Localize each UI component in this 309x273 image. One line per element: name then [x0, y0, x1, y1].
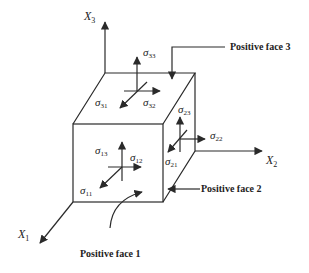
positive-face-2-label: Positive face 2 [201, 184, 262, 194]
stress-cube-diagram: X3 X2 X1 σ33 σ31 σ32 σ13 σ12 σ11 σ23 σ22… [0, 0, 309, 273]
x3-axis-label: X3 [84, 10, 95, 25]
positive-face-3-label: Positive face 3 [230, 42, 291, 52]
sigma-32-label: σ32 [143, 97, 155, 110]
face1-leader-arrow [110, 192, 142, 228]
right-face [163, 73, 195, 202]
sigma-22-label: σ22 [210, 130, 222, 143]
positive-face-1-label: Positive face 1 [80, 249, 141, 259]
face3-leader-arrow [172, 47, 225, 79]
sigma-13-label: σ13 [95, 145, 107, 158]
x1-axis-arrow [40, 202, 73, 243]
sigma-21-label: σ21 [165, 156, 177, 169]
sigma-12-label: σ12 [130, 152, 142, 165]
sigma-31-label: σ31 [95, 97, 107, 110]
sigma-33-label: σ33 [143, 47, 155, 60]
cube [73, 73, 195, 202]
sigma-23-label: σ23 [178, 104, 190, 117]
x1-axis-label: X1 [18, 228, 29, 243]
top-face [73, 73, 195, 124]
x2-axis-label: X2 [266, 154, 277, 169]
sigma-11-label: σ11 [80, 185, 92, 198]
face2-stress-arrows [168, 117, 205, 152]
